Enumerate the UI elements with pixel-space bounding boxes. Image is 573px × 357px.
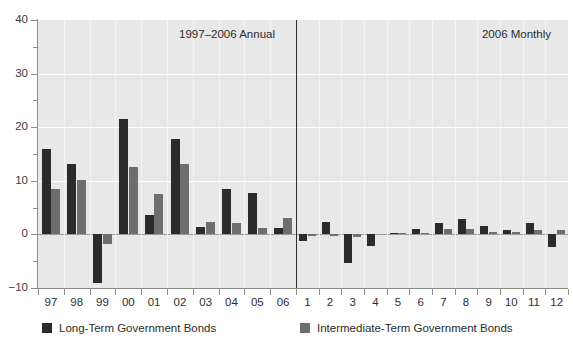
bar-monthly-1-it: [308, 234, 316, 236]
bar-monthly-8-it: [466, 229, 474, 234]
bar-monthly-7-lt: [435, 223, 443, 235]
x-axis-tick-mark: [270, 289, 271, 295]
x-axis-tick-mark: [296, 289, 297, 295]
x-axis-tick-label-monthly-2: 2: [319, 296, 342, 308]
x-axis-tick-label-annual-02: 02: [167, 296, 193, 308]
x-axis-tick-mark: [568, 289, 569, 295]
x-axis-tick-mark: [455, 289, 456, 295]
bar-monthly-5-it: [398, 233, 406, 234]
bar-monthly-12-it: [557, 230, 565, 234]
x-axis-tick-mark: [167, 289, 168, 295]
bar-monthly-11-lt: [526, 223, 534, 235]
bar-annual-02-lt: [171, 139, 180, 234]
vertical-gridline: [545, 20, 546, 288]
x-axis-tick-label-monthly-6: 6: [409, 296, 432, 308]
x-axis-tick-mark: [38, 289, 39, 295]
bar-monthly-2-it: [330, 234, 338, 236]
y-axis-tick-label: −10: [0, 281, 36, 293]
vertical-gridline: [432, 20, 433, 288]
x-axis-tick-mark: [477, 289, 478, 295]
bar-annual-01-it: [154, 194, 163, 235]
x-axis-tick-mark: [364, 289, 365, 295]
vertical-gridline: [90, 20, 91, 288]
vertical-gridline: [167, 20, 168, 288]
x-axis-line: [37, 288, 568, 289]
y-axis-tick-label: 0: [0, 227, 36, 239]
x-axis-tick-label-monthly-10: 10: [500, 296, 523, 308]
y-axis-tick-label: 10: [0, 174, 36, 186]
y-axis-minor-tick-mark: [33, 261, 37, 262]
bar-monthly-7-it: [444, 229, 452, 234]
x-axis-tick-mark: [341, 289, 342, 295]
x-axis-tick-label-annual-99: 99: [90, 296, 116, 308]
y-axis-tick-label: 40: [0, 13, 36, 25]
bar-annual-99-lt: [93, 234, 102, 282]
vertical-gridline: [500, 20, 501, 288]
bar-annual-05-lt: [248, 193, 257, 235]
x-axis-tick-label-monthly-9: 9: [477, 296, 500, 308]
bar-annual-04-it: [232, 223, 241, 235]
x-axis-tick-label-annual-00: 00: [115, 296, 141, 308]
x-axis-tick-mark: [523, 289, 524, 295]
vertical-gridline: [477, 20, 478, 288]
x-axis-tick-mark: [387, 289, 388, 295]
bar-monthly-8-lt: [458, 219, 466, 235]
panel-divider: [296, 20, 297, 288]
bar-monthly-4-lt: [367, 234, 375, 246]
legend-item-long-term: Long-Term Government Bonds: [42, 322, 216, 334]
bar-annual-06-it: [283, 218, 292, 234]
x-axis-tick-label-monthly-1: 1: [296, 296, 319, 308]
x-axis-tick-mark: [115, 289, 116, 295]
x-axis-tick-mark: [319, 289, 320, 295]
x-axis-tick-label-monthly-11: 11: [523, 296, 546, 308]
vertical-gridline: [341, 20, 342, 288]
bar-annual-03-lt: [196, 227, 205, 235]
bar-annual-01-lt: [145, 215, 154, 235]
vertical-gridline: [115, 20, 116, 288]
x-axis-tick-label-annual-06: 06: [270, 296, 296, 308]
bar-monthly-12-lt: [548, 234, 556, 247]
y-axis-line: [37, 19, 38, 289]
x-axis-tick-mark: [64, 289, 65, 295]
bar-annual-99-it: [103, 234, 112, 244]
vertical-gridline: [219, 20, 220, 288]
chart-legend: Long-Term Government Bonds Intermediate-…: [0, 322, 573, 346]
plot-area: [38, 20, 568, 288]
legend-label-intermediate-term: Intermediate-Term Government Bonds: [317, 322, 513, 334]
x-axis-tick-label-monthly-8: 8: [455, 296, 478, 308]
panel-title-annual: 1997–2006 Annual: [179, 28, 275, 40]
x-axis-tick-mark: [193, 289, 194, 295]
x-axis-tick-mark: [244, 289, 245, 295]
horizontal-gridline: [38, 74, 568, 75]
vertical-gridline: [523, 20, 524, 288]
vertical-gridline: [64, 20, 65, 288]
panel-title-monthly: 2006 Monthly: [482, 28, 551, 40]
vertical-gridline: [455, 20, 456, 288]
x-axis-tick-label-annual-04: 04: [219, 296, 245, 308]
y-axis-minor-tick-mark: [33, 47, 37, 48]
x-axis-tick-label-annual-03: 03: [193, 296, 219, 308]
x-axis-tick-label-monthly-4: 4: [364, 296, 387, 308]
x-axis-tick-label-monthly-3: 3: [341, 296, 364, 308]
x-axis-tick-label-annual-05: 05: [244, 296, 270, 308]
bar-annual-05-it: [258, 228, 267, 234]
vertical-gridline: [364, 20, 365, 288]
vertical-gridline: [193, 20, 194, 288]
bar-annual-97-it: [51, 189, 60, 234]
x-axis-tick-mark: [500, 289, 501, 295]
bar-annual-98-lt: [67, 164, 76, 234]
bar-annual-00-it: [129, 167, 138, 235]
y-axis-minor-tick-mark: [33, 100, 37, 101]
bar-monthly-6-lt: [412, 229, 420, 234]
bar-annual-04-lt: [222, 189, 231, 235]
y-axis-tick-label: 20: [0, 120, 36, 132]
bar-monthly-9-it: [489, 232, 497, 234]
bar-annual-06-lt: [274, 228, 283, 234]
bar-monthly-11-it: [534, 230, 542, 235]
bar-annual-97-lt: [42, 149, 51, 234]
bar-monthly-1-lt: [299, 234, 307, 240]
x-axis-tick-label-monthly-5: 5: [387, 296, 410, 308]
y-axis-tick-label: 30: [0, 67, 36, 79]
vertical-gridline: [244, 20, 245, 288]
bar-annual-98-it: [77, 180, 86, 235]
